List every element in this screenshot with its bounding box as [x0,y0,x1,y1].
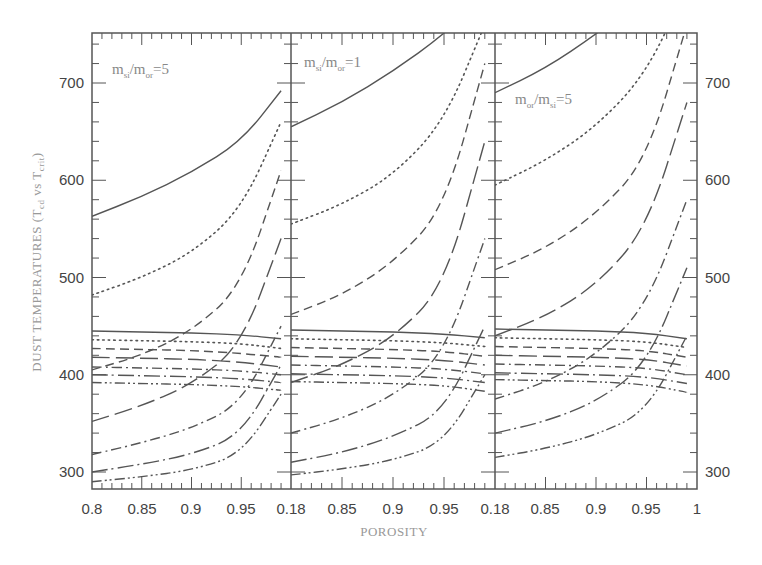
x-tick-label: 0.95 [429,500,458,517]
x-tick-label: 0.95 [631,500,660,517]
y-tick-label: 600 [59,171,84,188]
x-tick-label: 0.85 [327,500,356,517]
y-tick-label: 300 [59,463,84,480]
x-axis-title: POROSITY [360,524,428,539]
dust-temperature-chart: 3003004004005005006006007007000.80.850.9… [0,0,762,565]
x-tick-label: 0.95 [226,500,255,517]
x-tick-label: 0.85 [127,500,156,517]
x-tick-label: 0.85 [530,500,559,517]
x-tick-label: 0.8 [82,500,103,517]
panel-1-ratio-label: msi/mor=5 [112,61,169,80]
x-tick-label: 0.9 [181,500,202,517]
x-tick-label: 0.9 [586,500,607,517]
panel-1-series [92,91,281,482]
tick-labels: 3003004004005005006006007007000.80.850.9… [59,74,730,517]
y-tick-label-right: 700 [705,74,730,91]
y-tick-label: 500 [59,269,84,286]
y-tick-label-right: 400 [705,366,730,383]
y-axis-title: DUST TEMPERATURES (Tcd vs Tcrit) [29,152,46,371]
y-tick-label-right: 600 [705,171,730,188]
y-tick-label: 700 [59,74,84,91]
y-tick-label: 400 [59,366,84,383]
data-series [92,0,687,482]
x-tick-label: 0.18 [480,500,509,517]
y-tick-label-right: 500 [705,269,730,286]
plot-frame [92,33,697,489]
y-tick-label-right: 300 [705,463,730,480]
x-tick-label: 1 [693,500,701,517]
panel-3-ratio-label: mor/msi=5 [515,91,572,110]
panel-3-series [495,0,687,457]
axis-ticks [92,33,697,489]
panel-2-ratio-label: msi/mor=1 [304,54,361,73]
x-tick-label: 0.18 [276,500,305,517]
x-tick-label: 0.9 [383,500,404,517]
